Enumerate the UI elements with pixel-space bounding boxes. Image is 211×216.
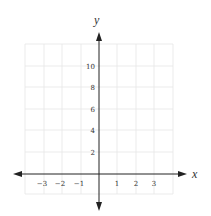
y-tick: 6 xyxy=(91,106,96,114)
x-axis-left-arrow-icon xyxy=(13,171,22,177)
coordinate-plane: x y −3 −2 −1 1 2 3 2 4 6 8 10 xyxy=(0,0,211,216)
y-tick: 8 xyxy=(91,84,95,92)
y-axis-down-arrow-icon xyxy=(96,202,102,211)
x-axis-label: x xyxy=(191,167,198,181)
y-axis-label: y xyxy=(93,13,100,27)
x-axis-right-arrow-icon xyxy=(178,171,187,177)
y-tick-labels: 2 4 6 8 10 xyxy=(86,63,95,157)
y-tick: 2 xyxy=(91,149,95,157)
y-tick: 10 xyxy=(86,63,95,71)
x-tick: 2 xyxy=(134,180,138,188)
y-tick: 4 xyxy=(91,127,96,135)
x-tick: −3 xyxy=(37,180,47,188)
x-tick-labels: −3 −2 −1 1 2 3 xyxy=(37,180,156,188)
x-tick: 3 xyxy=(152,180,156,188)
x-tick: −2 xyxy=(55,180,65,188)
y-axis-up-arrow-icon xyxy=(96,32,102,41)
x-tick: 1 xyxy=(115,180,119,188)
x-tick: −1 xyxy=(74,180,84,188)
